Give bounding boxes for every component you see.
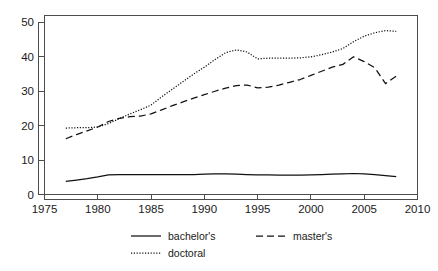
y-tick-label: 20 [21, 120, 34, 132]
legend-label: bachelor's [168, 230, 216, 242]
y-tick-label: 50 [21, 16, 34, 28]
x-tick-label: 1990 [192, 203, 218, 215]
chart-background [0, 0, 438, 271]
line-chart: 01020304050 1975198019851990199520002005… [0, 0, 438, 271]
x-tick-label: 1985 [138, 203, 164, 215]
y-tick-label: 0 [28, 189, 34, 201]
x-tick-label: 1980 [85, 203, 111, 215]
legend-label: master's [293, 230, 332, 242]
x-tick-label: 2000 [298, 203, 324, 215]
x-tick-label: 1975 [32, 203, 58, 215]
x-tick-label: 2005 [351, 203, 377, 215]
y-tick-label: 30 [21, 85, 34, 97]
legend-label: doctoral [168, 247, 205, 259]
x-tick-label: 2010 [405, 203, 431, 215]
chart-canvas: 01020304050 1975198019851990199520002005… [0, 0, 438, 271]
y-tick-label: 10 [21, 154, 34, 166]
y-tick-label: 40 [21, 51, 34, 63]
x-tick-label: 1995 [245, 203, 271, 215]
